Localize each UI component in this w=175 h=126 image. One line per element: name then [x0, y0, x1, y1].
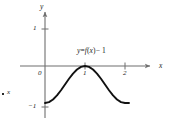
- x-axis-label: x: [159, 62, 162, 70]
- stray-bullet-icon: [2, 93, 4, 95]
- y-tick-label-1: 1: [33, 25, 37, 32]
- origin-tick-label: 0: [38, 70, 42, 77]
- graph-canvas: [0, 0, 175, 126]
- function-curve: [45, 66, 129, 103]
- y-tick-label-minus-1: −1: [28, 103, 36, 110]
- curve-equation-label: y=f(x)− 1: [77, 47, 106, 55]
- y-axis-label: y: [40, 3, 43, 11]
- equation-minus-one: − 1: [96, 46, 106, 55]
- x-tick-label-2: 2: [123, 70, 127, 77]
- x-tick-label-1: 1: [83, 70, 87, 77]
- stray-x-label: x: [7, 89, 10, 96]
- math-graph-figure: y x 0 1 2 1 −1 y=f(x)− 1 x: [0, 0, 175, 126]
